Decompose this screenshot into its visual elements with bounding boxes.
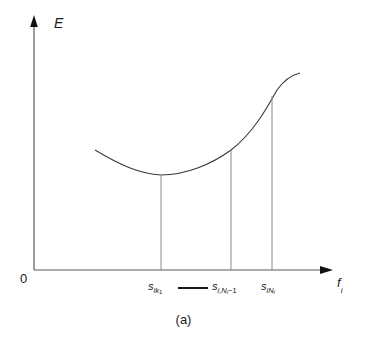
origin-label: 0 <box>20 272 27 285</box>
x-axis-arrow-icon <box>320 266 333 274</box>
plot-canvas <box>0 0 367 343</box>
tick-label-s-ik1: sik1 <box>148 281 162 292</box>
energy-curve <box>95 73 300 175</box>
x-axis-label: fi <box>337 276 342 293</box>
tick-label-s-iNi: siNi <box>261 281 275 292</box>
tick-1-sub-sub: 1 <box>159 289 162 295</box>
tick-2-sub-b-sub: i <box>227 289 228 295</box>
tick-2-subscript: i,Ni−1 <box>218 286 237 295</box>
y-axis-arrow-icon <box>30 15 38 27</box>
tick-3-subscript: iNi <box>267 286 275 295</box>
figure-panel-a: E fi 0 sik1 si,Ni−1 siNi (a) <box>0 0 367 343</box>
figure-caption: (a) <box>0 312 367 327</box>
ellipsis-rule <box>178 287 208 289</box>
y-axis-label: E <box>54 16 63 30</box>
tick-3-sub-a-sub: i <box>274 289 275 295</box>
tick-2-sub-b: N <box>221 286 226 295</box>
tick-label-s-iNi-minus-1: si,Ni−1 <box>212 281 237 292</box>
tick-3-sub-a: iN <box>267 286 274 295</box>
tick-1-subscript: ik1 <box>154 286 163 295</box>
tick-2-sub-c: −1 <box>228 286 237 295</box>
